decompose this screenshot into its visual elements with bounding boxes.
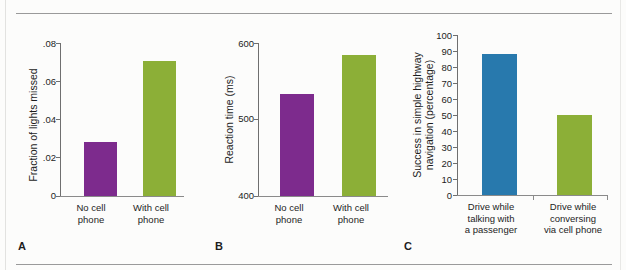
panel-c-xtick-label-1: Drive while conversing via cell phone — [529, 201, 617, 236]
panel-c-xtick-label-0: Drive while talking with a passenger — [451, 201, 531, 236]
panel-a-xtick-label-1-line2: phone — [138, 214, 164, 225]
panel-a-bar-with-cell-phone[interactable] — [143, 61, 176, 196]
panel-c-ytick-7: 30 — [426, 142, 452, 153]
panel-c-bar-passenger[interactable] — [482, 54, 517, 195]
figure-canvas: Fraction of lights missed .08 .06 .04 .0… — [0, 0, 626, 270]
panel-c-ytick-4: 60 — [426, 94, 452, 105]
panel-c-ytick-mark-10 — [453, 195, 457, 196]
panel-b-ytick-0: 600 — [226, 38, 254, 49]
panel-c-y-axis-title-line1: Success in simple highway — [412, 30, 423, 200]
panel-c-ytick-0: 100 — [426, 30, 452, 41]
panel-b-xtick-label-1-line2: phone — [338, 214, 364, 225]
panel-a-bar-no-cell-phone[interactable] — [84, 142, 117, 197]
panel-c-ytick-2: 80 — [426, 62, 452, 73]
panel-c-ytick-3: 70 — [426, 78, 452, 89]
panel-c-xtick-mark-mid — [533, 196, 534, 200]
panel-a-ytick-4: 0 — [32, 190, 56, 201]
panel-b-xtick-label-1: With cell phone — [313, 202, 389, 225]
panel-a-ytick-2: .04 — [32, 114, 56, 125]
panel-c-xtick-label-1-line1: Drive while — [550, 201, 596, 212]
panel-a-x-axis — [60, 196, 184, 197]
panel-a: Fraction of lights missed .08 .06 .04 .0… — [0, 0, 200, 270]
panel-b-xtick-label-0-line2: phone — [276, 214, 302, 225]
panel-b: Reaction time (ms) 600 500 400 No cell p… — [200, 0, 400, 270]
panel-c-ytick-10: 0 — [426, 190, 452, 201]
panel-b-letter: B — [215, 240, 223, 252]
panel-c-xtick-label-0-line1: Drive while — [468, 201, 514, 212]
panel-c-ytick-5: 50 — [426, 110, 452, 121]
panel-b-bar-with-cell-phone[interactable] — [342, 55, 376, 197]
panel-b-ytick-mark-2 — [254, 196, 258, 197]
panel-c-xtick-mark-end — [607, 196, 608, 200]
panel-a-ytick-3: .02 — [32, 152, 56, 163]
panel-a-xtick-label-1: With cell phone — [113, 202, 189, 225]
panel-c-xtick-label-1-line2: conversing — [550, 213, 596, 224]
panel-a-ytick-mark-4 — [56, 196, 60, 197]
panel-a-xtick-label-1-line1: With cell — [133, 202, 169, 213]
panel-c-xtick-label-0-line2: talking with — [468, 213, 515, 224]
panel-c-ytick-9: 10 — [426, 174, 452, 185]
panel-c-bar-cell-phone[interactable] — [557, 115, 592, 195]
panel-b-xtick-label-0-line1: No cell — [274, 202, 303, 213]
panel-c-letter: C — [404, 240, 412, 252]
panel-c-ytick-8: 20 — [426, 158, 452, 169]
panel-c-xtick-label-0-line3: a passenger — [465, 224, 517, 235]
panel-a-xtick-label-0-line2: phone — [78, 214, 104, 225]
panel-c: Success in simple highway navigation (pe… — [398, 0, 626, 270]
panel-b-bar-no-cell-phone[interactable] — [280, 94, 314, 196]
panel-b-xtick-label-1-line1: With cell — [333, 202, 369, 213]
panel-c-ytick-6: 40 — [426, 126, 452, 137]
panel-a-ytick-1: .06 — [32, 76, 56, 87]
panel-a-y-axis-title: Fraction of lights missed — [28, 45, 40, 205]
panel-a-xtick-label-0-line1: No cell — [76, 202, 105, 213]
panel-b-ytick-1: 500 — [226, 113, 254, 124]
panel-a-letter: A — [18, 240, 26, 252]
panel-c-ytick-1: 90 — [426, 46, 452, 57]
panel-a-ytick-0: .08 — [32, 38, 56, 49]
panel-b-ytick-2: 400 — [226, 190, 254, 201]
panel-b-x-axis — [258, 196, 388, 197]
panel-c-xtick-label-1-line3: via cell phone — [544, 224, 602, 235]
